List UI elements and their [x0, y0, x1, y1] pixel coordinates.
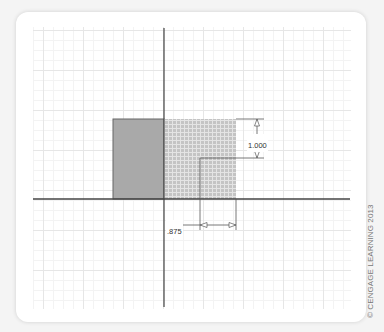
arrow-down-icon	[255, 151, 260, 158]
arrow-left-icon	[200, 223, 207, 228]
solid-square	[113, 119, 164, 199]
offset-label-box: .875	[166, 220, 183, 238]
height-label: 1.000	[248, 141, 267, 150]
arrow-right-icon	[229, 223, 236, 228]
arrow-up-icon	[255, 119, 260, 126]
offset-label: .875	[167, 227, 182, 236]
copyright-text: © CENGAGE LEARNING 2013	[366, 204, 375, 318]
height-label-box: 1.000	[247, 134, 268, 152]
diagram-canvas	[0, 0, 384, 332]
